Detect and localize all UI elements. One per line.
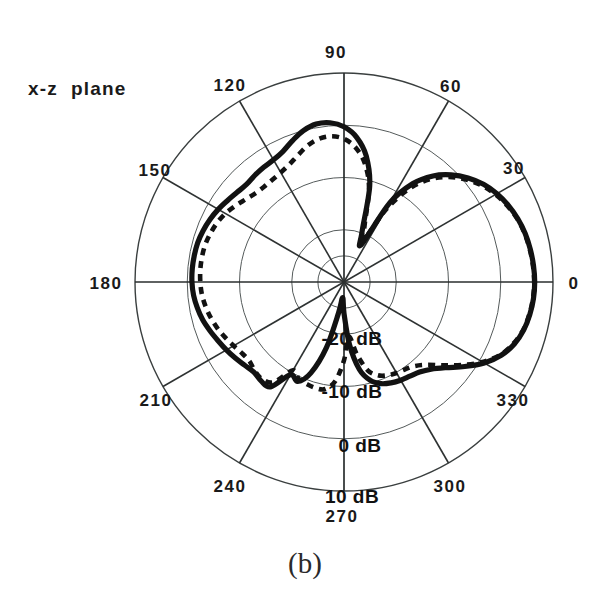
angle-label: 270 [325,507,358,526]
polar-grid [135,73,553,491]
angle-label: 60 [440,77,462,96]
angle-label: 180 [89,274,122,293]
radial-label: -20 dB [321,328,382,349]
figure-caption: (b) [0,547,610,580]
angle-label: 0 [568,274,579,293]
angle-label: 210 [139,391,172,410]
grid-spoke [240,101,345,282]
angle-label: 240 [213,477,246,496]
angle-label: 330 [496,391,529,410]
polar-radiation-pattern-chart: 0306090120150180210240270300330 -20 dB-1… [0,0,610,609]
radial-label: 10 dB [325,486,379,507]
angle-label: 120 [213,76,246,95]
radial-label: -10 dB [321,381,382,402]
grid-spoke [344,101,449,282]
angle-label: 300 [433,477,466,496]
angle-label: 90 [325,43,347,62]
angle-label: 150 [138,161,171,180]
angle-label: 30 [503,159,525,178]
angle-tick-labels: 0306090120150180210240270300330 [89,43,579,526]
radial-label: 0 dB [338,435,381,456]
